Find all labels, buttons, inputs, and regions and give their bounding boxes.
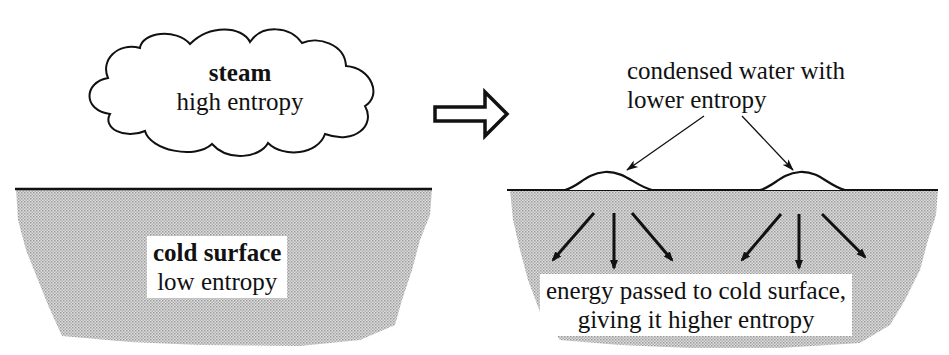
condensed-water-droplets <box>565 172 845 190</box>
pointer-to-right-droplet <box>742 116 793 170</box>
steam-title: steam <box>150 58 330 87</box>
callout-pointers <box>627 116 793 170</box>
hollow-right-arrow-icon <box>435 92 507 136</box>
caption-line-2: giving it higher entropy <box>546 305 846 334</box>
callout-line-2: lower entropy <box>627 85 845 114</box>
energy-caption: energy passed to cold surface, giving it… <box>540 274 852 336</box>
cold-surface-label: cold surface low entropy <box>147 236 287 298</box>
steam-subtitle: high entropy <box>150 87 330 116</box>
caption-line-1: energy passed to cold surface, <box>546 276 846 305</box>
droplet-right <box>760 172 845 190</box>
cold-surface-title: cold surface <box>153 238 281 267</box>
condensed-water-callout: condensed water with lower entropy <box>627 56 845 114</box>
steam-label: steam high entropy <box>150 58 330 116</box>
pointer-to-left-droplet <box>627 116 704 170</box>
droplet-left <box>565 172 652 190</box>
callout-line-1: condensed water with <box>627 56 845 85</box>
cold-surface-subtitle: low entropy <box>153 267 281 296</box>
